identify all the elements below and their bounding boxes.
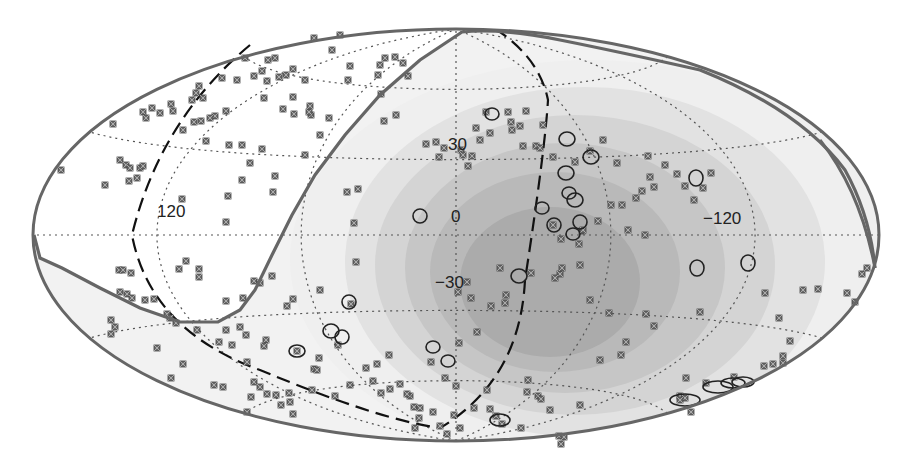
event-marker — [509, 127, 515, 133]
event-marker — [433, 139, 439, 145]
event-marker — [625, 227, 631, 233]
event-marker — [140, 163, 146, 169]
event-marker — [239, 177, 245, 183]
event-marker — [662, 162, 668, 168]
event-marker — [226, 142, 232, 148]
event-marker — [776, 315, 782, 321]
event-marker — [451, 412, 457, 418]
event-marker — [558, 441, 564, 447]
event-marker — [272, 55, 278, 61]
event-marker — [614, 160, 620, 166]
event-marker — [225, 193, 231, 199]
event-marker — [505, 109, 511, 115]
event-marker — [639, 188, 645, 194]
event-marker — [189, 97, 195, 103]
event-marker — [787, 338, 793, 344]
event-marker — [251, 73, 257, 79]
event-marker — [457, 425, 463, 431]
event-marker — [276, 74, 282, 80]
event-marker — [392, 54, 398, 60]
event-marker — [487, 130, 493, 136]
event-marker — [700, 185, 706, 191]
event-marker — [264, 391, 270, 397]
event-marker — [264, 78, 270, 84]
event-marker — [223, 108, 229, 114]
event-marker — [142, 297, 148, 303]
event-marker — [200, 95, 206, 101]
event-marker — [191, 119, 197, 125]
event-marker — [345, 77, 351, 83]
event-marker — [290, 296, 296, 302]
event-marker — [170, 108, 176, 114]
event-marker — [487, 406, 493, 412]
event-marker — [674, 171, 680, 177]
event-marker — [265, 57, 271, 63]
event-marker — [196, 266, 202, 272]
event-marker — [58, 167, 64, 173]
event-marker — [278, 402, 284, 408]
event-marker — [393, 112, 399, 118]
event-marker — [618, 352, 624, 358]
event-marker — [682, 183, 688, 189]
event-marker — [619, 202, 625, 208]
event-marker — [577, 262, 583, 268]
event-marker — [284, 303, 290, 309]
lat-label-minus-30: −30 — [435, 273, 464, 293]
event-marker — [294, 348, 300, 354]
event-marker — [283, 72, 289, 78]
event-marker — [488, 303, 494, 309]
event-marker — [677, 397, 683, 403]
event-marker — [157, 110, 163, 116]
event-marker — [558, 236, 564, 242]
event-marker — [412, 425, 418, 431]
event-marker — [442, 375, 448, 381]
event-marker — [540, 122, 546, 128]
event-marker — [864, 265, 870, 271]
event-marker — [180, 127, 186, 133]
event-marker — [237, 324, 243, 330]
event-marker — [120, 267, 126, 273]
event-marker — [243, 332, 249, 338]
event-marker — [223, 298, 229, 304]
event-marker — [577, 402, 583, 408]
event-marker — [859, 271, 865, 277]
event-marker — [386, 352, 392, 358]
event-marker — [117, 289, 123, 295]
event-marker — [651, 184, 657, 190]
event-marker — [239, 142, 245, 148]
event-marker — [477, 137, 483, 143]
event-marker — [347, 382, 353, 388]
event-marker — [844, 290, 850, 296]
event-marker — [259, 146, 265, 152]
event-marker — [559, 265, 565, 271]
event-marker — [240, 295, 246, 301]
event-marker — [280, 106, 286, 112]
event-marker — [244, 359, 250, 365]
event-marker — [633, 195, 639, 201]
event-marker — [528, 270, 534, 276]
event-marker — [520, 143, 526, 149]
event-marker — [503, 292, 509, 298]
event-marker — [154, 345, 160, 351]
event-marker — [272, 173, 278, 179]
event-marker — [525, 377, 531, 383]
event-marker — [127, 165, 133, 171]
event-marker — [550, 154, 556, 160]
event-marker — [416, 415, 422, 421]
event-marker — [302, 77, 308, 83]
event-marker — [329, 47, 335, 53]
event-marker — [108, 317, 114, 323]
event-marker — [168, 101, 174, 107]
event-marker — [261, 343, 267, 349]
event-marker — [761, 363, 767, 369]
event-marker — [220, 384, 226, 390]
event-marker — [572, 159, 578, 165]
event-marker — [307, 103, 313, 109]
event-marker — [382, 55, 388, 61]
event-marker — [140, 109, 146, 115]
event-marker — [474, 329, 480, 335]
event-marker — [606, 310, 612, 316]
event-marker — [108, 331, 114, 337]
event-marker — [344, 189, 350, 195]
event-marker — [196, 274, 202, 280]
